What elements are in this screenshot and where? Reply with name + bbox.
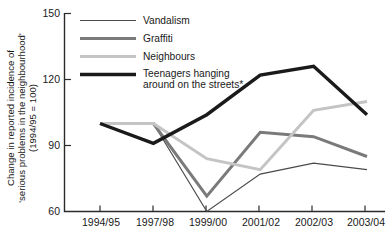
x-tick-label-0: 1994/95 (82, 216, 120, 228)
axis-lines (65, 13, 386, 212)
y-tick-label-90: 90 (48, 139, 60, 151)
chart-figure: Change in reported incidence of 'serious… (0, 0, 390, 241)
y-axis-title: Change in reported incidence of 'serious… (5, 33, 38, 203)
x-axis-tick-labels: 1994/95 1997/98 1999/00 2001/02 2002/03 … (82, 216, 385, 228)
x-axis-ticks (100, 206, 365, 212)
x-tick-label-1: 1997/98 (136, 216, 174, 228)
legend-label-teenagers-line-1: Teenagers hanging (143, 68, 230, 79)
chart-legend: Vandalism Graffiti Neighbours Teenagers … (80, 15, 243, 90)
x-tick-label-3: 2001/02 (242, 216, 280, 228)
y-axis-title-line-3: (1994/95 = 100) (27, 84, 38, 152)
legend-label-teenagers-line-2: around on the streets* (143, 79, 243, 90)
legend-label-vandalism: Vandalism (143, 15, 190, 26)
y-axis-title-line-1: Change in reported incidence of (5, 50, 16, 186)
legend-item-graffiti[interactable]: Graffiti (80, 33, 173, 44)
series-line-neighbours (100, 102, 367, 170)
y-tick-label-60: 60 (48, 205, 60, 217)
x-tick-label-2: 1999/00 (189, 216, 227, 228)
legend-label-graffiti: Graffiti (143, 33, 173, 44)
y-tick-label-150: 150 (42, 7, 60, 19)
legend-item-teenagers[interactable]: Teenagers hanging around on the streets* (80, 68, 243, 90)
y-tick-label-120: 120 (42, 73, 60, 85)
series-line-graffiti (100, 124, 367, 197)
series-line-teenagers (100, 66, 367, 143)
legend-item-vandalism[interactable]: Vandalism (80, 15, 190, 26)
y-axis-title-line-2: 'serious problems in the neighbourhood' (16, 33, 27, 203)
legend-label-neighbours: Neighbours (143, 51, 195, 62)
line-chart: Change in reported incidence of 'serious… (0, 0, 390, 241)
y-axis-ticks: 150 120 90 60 (42, 7, 71, 217)
x-tick-label-5: 2003/04 (347, 216, 385, 228)
legend-item-neighbours[interactable]: Neighbours (80, 51, 195, 62)
x-tick-label-4: 2002/03 (295, 216, 333, 228)
